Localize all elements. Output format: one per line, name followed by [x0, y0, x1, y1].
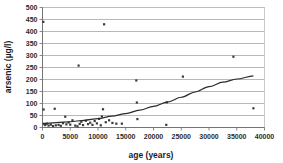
- y-tick-label-100: 100: [26, 100, 38, 107]
- y-tick-label-250: 250: [26, 64, 38, 71]
- data-point-18: [74, 124, 76, 126]
- y-tick-label-0: 0: [34, 124, 38, 131]
- data-point-19: [76, 125, 78, 127]
- x-tick-label-40000: 40000: [255, 133, 275, 140]
- x-tick-label-10000: 10000: [88, 133, 108, 140]
- data-point-20: [77, 64, 79, 66]
- data-point-31: [100, 124, 102, 126]
- data-point-36: [108, 119, 110, 121]
- x-tick-label-5000: 5000: [62, 133, 78, 140]
- data-point-42: [136, 118, 138, 120]
- x-tick-label-20000: 20000: [144, 133, 164, 140]
- data-point-25: [87, 123, 89, 125]
- x-tick-label-35000: 35000: [227, 133, 247, 140]
- data-point-47: [252, 107, 254, 109]
- data-point-23: [82, 124, 84, 126]
- data-point-7: [52, 125, 54, 127]
- data-point-26: [89, 122, 91, 124]
- x-tick-label-25000: 25000: [172, 133, 192, 140]
- data-point-11: [60, 125, 62, 127]
- data-point-28: [94, 120, 96, 122]
- data-point-37: [111, 122, 113, 124]
- data-point-5: [48, 124, 50, 126]
- data-point-35: [105, 121, 107, 123]
- data-point-45: [182, 76, 184, 78]
- data-point-33: [102, 108, 104, 110]
- x-axis-label: age (years): [129, 150, 174, 160]
- data-point-14: [65, 123, 67, 125]
- x-tick-label-0: 0: [41, 133, 45, 140]
- data-point-40: [135, 79, 137, 81]
- y-tick-label-150: 150: [26, 88, 38, 95]
- y-tick-label-400: 400: [26, 28, 38, 35]
- data-point-43: [165, 124, 167, 126]
- data-point-29: [96, 122, 98, 124]
- data-point-38: [115, 123, 117, 125]
- data-point-8: [54, 108, 56, 110]
- data-point-10: [57, 124, 59, 126]
- x-tick-label-15000: 15000: [116, 133, 136, 140]
- y-tick-label-350: 350: [26, 40, 38, 47]
- y-tick-label-300: 300: [26, 52, 38, 59]
- data-point-21: [79, 123, 81, 125]
- y-tick-label-200: 200: [26, 76, 38, 83]
- chart-canvas: 0500010000150002000025000300003500040000…: [0, 0, 283, 163]
- data-point-46: [232, 56, 234, 58]
- x-tick-label-30000: 30000: [199, 133, 219, 140]
- data-point-0: [42, 21, 44, 23]
- data-point-32: [101, 115, 103, 117]
- data-point-6: [50, 124, 52, 126]
- y-tick-label-450: 450: [26, 16, 38, 23]
- y-tick-label-500: 500: [26, 4, 38, 11]
- data-point-27: [91, 124, 93, 126]
- data-point-16: [69, 124, 71, 126]
- data-point-1: [43, 108, 45, 110]
- x-axis-ticks: 0500010000150002000025000300003500040000: [41, 128, 275, 140]
- data-point-39: [121, 123, 123, 125]
- arsenic-vs-age-scatter-chart: 0500010000150002000025000300003500040000…: [0, 0, 283, 163]
- data-point-41: [136, 101, 138, 103]
- data-point-34: [103, 23, 105, 25]
- y-axis-ticks: 050100150200250300350400450500: [26, 4, 43, 131]
- y-tick-label-50: 50: [30, 112, 38, 119]
- data-point-9: [55, 124, 57, 126]
- data-point-13: [64, 116, 66, 118]
- y-axis-label: arsenic (µg/l): [3, 41, 13, 94]
